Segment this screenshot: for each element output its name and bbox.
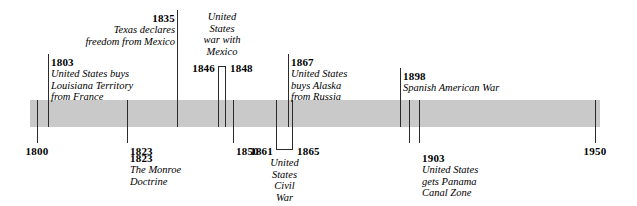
event-description-line: The Monroe — [130, 164, 181, 176]
event-monroe-doctrine: 1823The MonroeDoctrine — [130, 152, 181, 187]
axis-year-1850: 1850 — [236, 145, 259, 157]
axis-year-1800: 1800 — [23, 145, 51, 157]
event-description-line: from France — [51, 91, 133, 103]
timeline-figure: 18461848UnitedStateswar withMexico186118… — [0, 0, 637, 206]
axis-year-1950: 1950 — [581, 145, 609, 157]
event-louisiana-purchase: 1803United States buysLouisiana Territor… — [51, 56, 133, 103]
event-description-line: buys Alaska — [291, 80, 347, 92]
us-civil-war-bracket — [276, 100, 293, 150]
tick-1823 — [127, 100, 128, 143]
event-description-line: Spanish American War — [403, 82, 499, 94]
event-description-line: Louisiana Territory — [51, 80, 133, 92]
event-texas-independence: 1835Texas declaresfreedom from Mexico — [85, 12, 175, 47]
us-civil-war-end-year: 1865 — [297, 145, 320, 157]
event-panama-canal-zone: 1903United Statesgets PanamaCanal Zone — [422, 152, 478, 199]
caption-line: States — [245, 169, 325, 181]
us-civil-war-caption: UnitedStatesCivilWar — [245, 157, 325, 203]
event-description-line: Canal Zone — [422, 187, 478, 199]
tick-1803 — [48, 54, 49, 127]
event-description-line: Texas declares — [85, 24, 175, 36]
event-description-line: Doctrine — [130, 176, 181, 188]
tick-1903 — [419, 100, 420, 143]
event-year: 1898 — [403, 70, 499, 82]
mexican-american-war-caption: UnitedStateswar withMexico — [182, 11, 262, 57]
tick-1898 — [400, 68, 401, 127]
caption-line: Mexico — [182, 46, 262, 58]
event-alaska-purchase: 1867United Statesbuys Alaskafrom Russia — [291, 56, 347, 103]
tick-1950 — [595, 100, 596, 143]
event-spanish-american-war: 1898Spanish American War — [403, 70, 499, 94]
event-description-line: gets Panama — [422, 176, 478, 188]
caption-line: United — [245, 157, 325, 169]
event-year: 1823 — [130, 152, 181, 164]
mexican-american-war-start-year: 1846 — [192, 62, 215, 74]
event-description-line: United States — [291, 68, 347, 80]
mexican-american-war-bracket — [218, 66, 226, 127]
event-description-line: United States buys — [51, 68, 133, 80]
tick-1835 — [177, 10, 178, 127]
tick-1800 — [37, 100, 38, 143]
event-year: 1835 — [85, 12, 175, 24]
caption-line: war with — [182, 34, 262, 46]
event-description-line: freedom from Mexico — [85, 36, 175, 48]
event-description-line: from Russia — [291, 91, 347, 103]
event-year: 1803 — [51, 56, 133, 68]
event-year: 1903 — [422, 152, 478, 164]
caption-line: War — [245, 192, 325, 204]
event-description-line: United States — [422, 164, 478, 176]
caption-line: States — [182, 23, 262, 35]
caption-line: United — [182, 11, 262, 23]
timeline-band — [30, 100, 600, 127]
caption-line: Civil — [245, 180, 325, 192]
tick-1900 — [409, 100, 410, 143]
event-year: 1867 — [291, 56, 347, 68]
mexican-american-war-end-year: 1848 — [230, 62, 253, 74]
tick-1850 — [233, 100, 234, 143]
